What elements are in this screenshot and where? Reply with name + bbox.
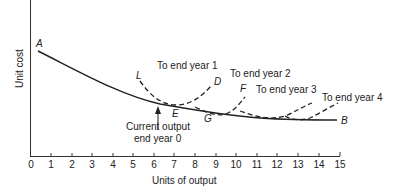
svg-text:13: 13 [292, 159, 304, 170]
svg-text:2: 2 [69, 159, 75, 170]
short-run-curve-year2 [195, 97, 245, 115]
svg-text:11: 11 [252, 159, 263, 170]
cost-curve-diagram: 0 1 2 3 4 5 6 7 8 9 10 11 12 13 14 15 Un… [0, 0, 398, 190]
svg-text:4: 4 [110, 159, 116, 170]
point-label-d: D [214, 76, 221, 87]
point-label-l: L [136, 70, 142, 81]
current-output-label-2: end year 0 [134, 133, 182, 144]
svg-text:14: 14 [313, 159, 325, 170]
svg-text:1: 1 [48, 159, 54, 170]
arrow-head-icon [155, 106, 161, 114]
current-output-label: Current output [126, 121, 190, 132]
svg-text:15: 15 [334, 159, 346, 170]
label-year2: To end year 2 [230, 68, 291, 79]
svg-text:8: 8 [192, 159, 198, 170]
point-label-e: E [172, 108, 179, 119]
svg-text:9: 9 [213, 159, 219, 170]
svg-text:5: 5 [130, 159, 136, 170]
svg-text:0: 0 [28, 159, 34, 170]
label-year3: To end year 3 [256, 84, 317, 95]
point-label-f: F [240, 83, 247, 94]
label-year1: To end year 1 [157, 60, 218, 71]
x-axis-label: Units of output [152, 175, 217, 186]
svg-text:10: 10 [230, 159, 242, 170]
svg-text:3: 3 [89, 159, 95, 170]
label-year4: To end year 4 [322, 92, 383, 103]
short-run-curve-year4 [285, 103, 338, 120]
svg-text:6: 6 [151, 159, 157, 170]
x-axis-tick-labels: 0 1 2 3 4 5 6 7 8 9 10 11 12 13 14 15 [28, 159, 346, 170]
point-label-a: A [35, 38, 43, 49]
short-run-curve-year3 [240, 103, 312, 118]
point-label-g: G [204, 113, 212, 124]
svg-text:7: 7 [171, 159, 177, 170]
svg-text:12: 12 [271, 159, 283, 170]
y-axis-label: Unit cost [14, 49, 25, 88]
point-label-b: B [341, 115, 348, 126]
x-axis-ticks [51, 152, 340, 156]
